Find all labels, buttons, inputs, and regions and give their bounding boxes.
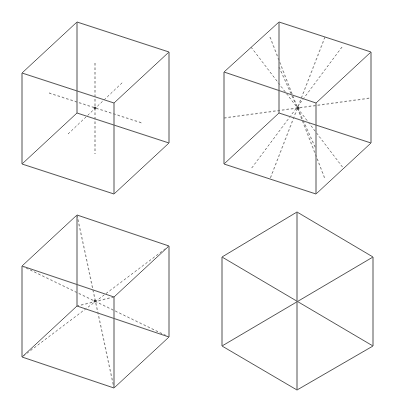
cube-edge-axes-panel — [224, 22, 371, 194]
center-point — [94, 107, 97, 110]
cube-hexagon-view-panel — [222, 212, 373, 390]
cube-symmetry-figure — [0, 0, 394, 410]
cube-diagonal-axes-panel — [22, 215, 169, 388]
center-point — [297, 107, 300, 110]
cube-face-axes-panel — [22, 22, 169, 194]
center-point — [94, 300, 97, 303]
